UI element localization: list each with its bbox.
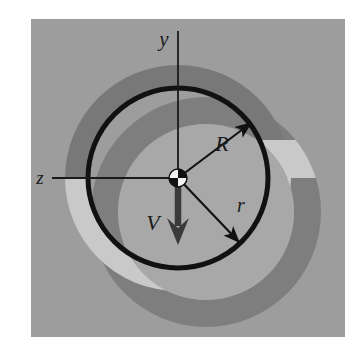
- radius-R-label: R: [214, 131, 229, 156]
- figure-root: y z R r V: [0, 0, 361, 354]
- radius-r-label: r: [237, 194, 245, 216]
- y-axis-label: y: [157, 27, 169, 51]
- diagram-svg: y z R r V: [0, 0, 361, 354]
- origin-checkered-marker: [169, 169, 187, 187]
- z-axis-label: z: [35, 167, 44, 188]
- offset-inner-disk: [118, 124, 294, 300]
